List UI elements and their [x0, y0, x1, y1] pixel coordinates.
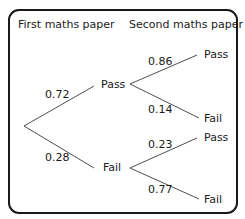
prob-fail-pass: 0.23 [148, 139, 173, 151]
prob-pass-pass: 0.86 [148, 56, 173, 68]
prob-first-pass: 0.72 [45, 89, 70, 101]
node-fail-fail: Fail [204, 194, 222, 206]
prob-first-fail: 0.28 [45, 152, 70, 164]
tree-branches [0, 0, 245, 219]
node-fail-pass: Pass [204, 132, 228, 144]
prob-fail-fail: 0.77 [148, 184, 173, 196]
header-first-paper: First maths paper [18, 19, 115, 31]
node-pass-fail: Fail [204, 113, 222, 125]
prob-pass-fail: 0.14 [148, 104, 173, 116]
node-pass-pass: Pass [204, 49, 228, 61]
node-first-fail: Fail [103, 162, 121, 174]
header-second-paper: Second maths paper [129, 19, 243, 31]
node-first-pass: Pass [101, 79, 125, 91]
